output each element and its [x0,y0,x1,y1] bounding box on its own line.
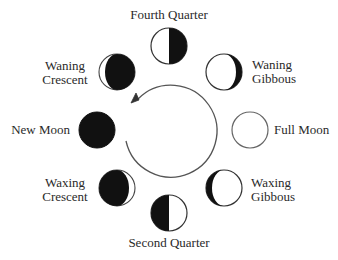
moon-fourth-quarter-icon [151,28,187,64]
moon-new-moon-icon [79,112,115,148]
moon-waxing-gibbous-icon [206,170,242,206]
cycle-arrow [126,85,217,177]
arrowhead-icon [131,93,139,103]
label-second-quarter: Second Quarter [119,236,219,250]
label-text-line2: Gibbous [251,190,295,204]
label-text-line1: Waxing [36,176,94,190]
moon-full-moon-icon [232,112,268,148]
label-new-moon: New Moon [6,123,70,137]
label-fourth-quarter: Fourth Quarter [119,8,219,22]
label-text-line2: Crescent [36,190,94,204]
label-waning-gibbous: Waning Gibbous [252,58,296,86]
label-text-line1: Waning [252,58,296,72]
label-text: New Moon [6,123,70,137]
moon-waning-gibbous-icon [206,54,242,90]
label-text-line2: Crescent [36,73,94,87]
label-text-line1: Waxing [251,176,295,190]
label-text: Second Quarter [119,236,219,250]
label-text-line1: Waning [36,59,94,73]
label-waxing-gibbous: Waxing Gibbous [251,176,295,204]
label-text: Full Moon [274,123,329,137]
label-text: Fourth Quarter [119,8,219,22]
moon-waning-crescent-icon [99,54,135,90]
label-text-line2: Gibbous [252,72,296,86]
label-waning-crescent: Waning Crescent [36,59,94,87]
moon-second-quarter-icon [151,195,187,231]
label-waxing-crescent: Waxing Crescent [36,176,94,204]
moon-phases-diagram: Fourth Quarter Waning Gibbous Full Moon … [0,0,338,260]
moon-waxing-crescent-icon [99,170,135,206]
label-full-moon: Full Moon [274,123,329,137]
